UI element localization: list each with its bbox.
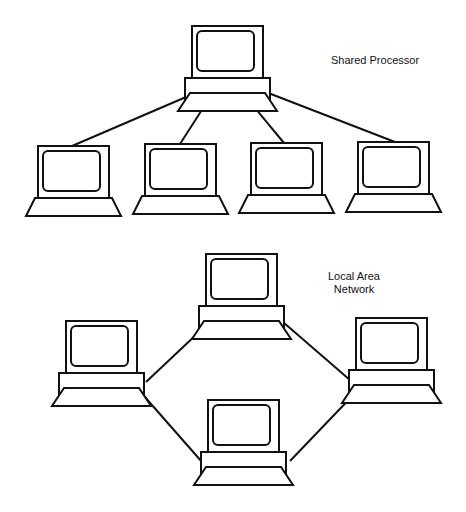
workstation-left [52, 321, 151, 406]
label-lan-line2: Network [334, 283, 375, 295]
keyboard-icon [52, 388, 151, 406]
link-workstation-top-workstation-right [276, 316, 350, 380]
terminal-2 [133, 144, 228, 214]
link-processor-terminal-4 [258, 89, 395, 142]
keyboard-icon [133, 196, 228, 214]
link-processor-terminal-1 [72, 91, 200, 146]
keyboard-icon [342, 385, 441, 403]
processor [178, 26, 277, 111]
keyboard-icon [239, 195, 334, 213]
workstation-right [342, 318, 441, 403]
keyboard-icon [346, 194, 441, 212]
label-lan-line1: Local Area [328, 270, 381, 282]
workstation-top [192, 254, 291, 339]
workstation-bottom [194, 400, 293, 485]
keyboard-icon [26, 198, 121, 216]
terminal-3 [239, 143, 334, 213]
keyboard-icon [178, 93, 277, 111]
label-shared-processor: Shared Processor [331, 54, 419, 66]
terminal-4 [346, 142, 441, 212]
keyboard-icon [192, 321, 291, 339]
terminal-1 [26, 146, 121, 216]
keyboard-icon [194, 467, 293, 485]
network-diagram: Shared Processor Local Area Network [0, 0, 466, 512]
